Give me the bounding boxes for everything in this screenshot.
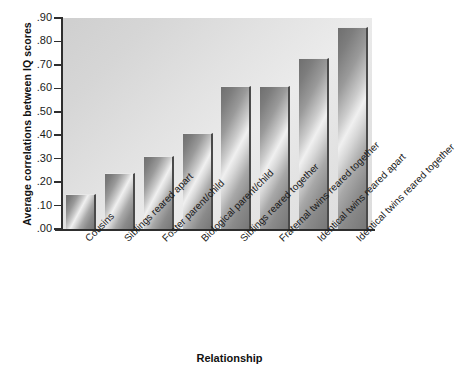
x-tick-label: Siblings reared together	[238, 161, 321, 244]
x-tick-label: Siblings reared apart	[122, 171, 195, 244]
x-axis-category-labels: CousinsSiblings reared apartFoster paren…	[0, 0, 459, 385]
x-tick-label: Cousins	[83, 210, 116, 243]
x-tick-label: Biological parent/child	[199, 167, 276, 244]
bar-chart: Average correlations between IQ scores .…	[0, 0, 459, 385]
x-axis-title: Relationship	[0, 352, 459, 364]
